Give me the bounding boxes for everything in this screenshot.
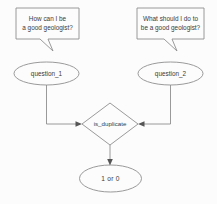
speech-bubble-question-2: What should I do to be a good geologist?: [137, 8, 204, 51]
edge-question-1-to-is-duplicate: [47, 85, 83, 127]
speech-bubble-question-2-line2: be a good geologist?: [141, 24, 201, 32]
edge-question-2-to-is-duplicate: [138, 85, 171, 127]
diagram-root: How can I be a good geologist? What shou…: [0, 0, 217, 204]
speech-bubble-question-1: How can I be a good geologist?: [16, 8, 79, 51]
node-question-1: question_1: [14, 62, 79, 85]
edge-question-1-line: [47, 85, 79, 124]
node-question-1-label: question_1: [31, 70, 63, 78]
node-is-duplicate-label: is_duplicate: [94, 120, 127, 127]
speech-bubble-question-1-line2: a good geologist?: [22, 24, 73, 32]
speech-bubble-question-1-line1: How can I be: [29, 15, 67, 22]
edge-question-2-line: [142, 85, 171, 124]
node-is-duplicate: is_duplicate: [82, 103, 138, 145]
edge-is-duplicate-to-output: [107, 145, 113, 166]
node-output: 1 or 0: [80, 165, 142, 192]
flowchart-canvas: How can I be a good geologist? What shou…: [0, 0, 217, 204]
edge-output-arrowhead: [107, 159, 113, 166]
edge-question-2-arrowhead: [138, 121, 145, 127]
node-output-label: 1 or 0: [101, 175, 120, 182]
edge-question-1-arrowhead: [76, 121, 83, 127]
node-question-2-label: question_2: [155, 70, 187, 78]
node-question-2: question_2: [138, 62, 203, 85]
speech-bubble-question-2-line1: What should I do to: [143, 15, 199, 22]
